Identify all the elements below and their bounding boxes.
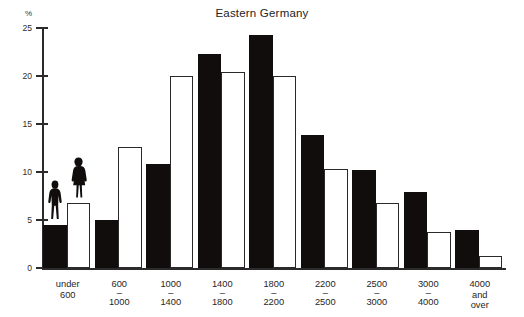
bar-women [118,147,142,268]
bar-group [94,28,146,268]
bar-men [301,135,325,268]
y-tick-label: 15 [2,119,32,129]
x-axis-label: under600 [42,279,94,300]
x-axis-label: 1400–1800 [197,279,249,307]
y-tick-label: 20 [2,71,32,81]
plot-area [42,28,506,268]
x-axis-label-line: – [403,290,455,297]
x-axis-label-line: 1400 [145,297,197,308]
x-axis-label-line: 1800 [197,297,249,308]
chart-title: Eastern Germany [0,7,524,19]
bar-group [351,28,403,268]
bar-men [146,164,170,268]
x-axis-label-line: 600 [42,290,94,301]
x-axis-label: 1000–1400 [145,279,197,307]
bar-group [42,28,94,268]
x-axis-label-line: – [300,290,352,297]
x-axis-label-line: 1000 [94,297,146,308]
bar-women [427,232,451,268]
x-axis-label-line: 4000 [454,279,506,290]
x-axis-label-line: – [145,290,197,297]
y-tick-label: 25 [2,23,32,33]
bar-men [352,170,376,268]
x-axis-label-line: 2200 [248,297,300,308]
x-axis-label-line: and [454,290,506,301]
chart-container: Eastern Germany % 0510152025 under600600… [0,0,524,317]
bar-men [404,192,428,268]
x-axis-label-line: 4000 [403,297,455,308]
x-axis-label-line: – [197,290,249,297]
y-tick-label: 0 [2,263,32,273]
x-axis-label-line: over [454,300,506,311]
y-tick-label: 10 [2,167,32,177]
bar-men [198,54,222,268]
y-axis-unit-label: % [25,9,32,18]
x-axis-label-line: 2500 [300,297,352,308]
x-axis-label: 1800–2200 [248,279,300,307]
bar-group [248,28,300,268]
female-figure-icon [69,157,88,203]
bar-group [403,28,455,268]
x-axis-label-line: – [351,290,403,297]
male-figure-icon [46,180,64,225]
x-axis-label: 4000andover [454,279,506,311]
bar-women [376,203,400,268]
bar-women [67,203,91,268]
x-axis-label-line: – [248,290,300,297]
x-axis-label-line: under [42,279,94,290]
x-axis-label-line: – [94,290,146,297]
bar-men [455,230,479,268]
x-axis-label: 600–1000 [94,279,146,307]
bar-men [43,225,67,268]
bar-women [170,76,194,268]
bar-men [249,35,273,268]
chart-title-text: Eastern Germany [215,7,308,19]
x-axis-label: 3000–4000 [403,279,455,307]
x-axis-label: 2200–2500 [300,279,352,307]
x-axis [42,268,506,270]
y-tick-label: 5 [2,215,32,225]
bar-group [145,28,197,268]
bar-group [454,28,506,268]
bar-women [273,76,297,268]
bar-group [300,28,352,268]
bar-women [324,169,348,268]
bar-women [479,256,503,268]
bar-men [95,220,119,268]
x-axis-label: 2500–3000 [351,279,403,307]
x-axis-label-line: 3000 [351,297,403,308]
bar-group [197,28,249,268]
bar-women [221,72,245,268]
